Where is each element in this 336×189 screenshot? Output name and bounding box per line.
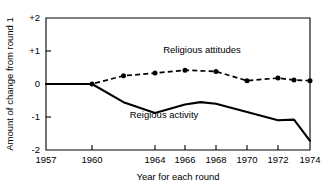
chart-figure: +2+10-1-2 195719601964196619681970197219… bbox=[0, 0, 336, 189]
series-label-1: Religious attitudes bbox=[163, 44, 241, 55]
data-point-marker bbox=[245, 78, 250, 83]
series-label-2: Reigious activity bbox=[130, 109, 199, 120]
y-tick-label: +2 bbox=[29, 12, 40, 23]
series-annotations: Religious attitudesReigious activity bbox=[130, 44, 241, 120]
x-tick-label: 1968 bbox=[205, 154, 226, 165]
x-axis-ticks: 19571960196419661968197019721974 bbox=[35, 145, 320, 165]
data-point-marker bbox=[183, 68, 188, 73]
series-layer bbox=[46, 68, 313, 141]
x-axis-title: Year for each round bbox=[136, 171, 219, 182]
data-point-marker bbox=[153, 71, 158, 76]
data-point-marker bbox=[121, 73, 126, 78]
x-tick-label: 1964 bbox=[144, 154, 165, 165]
y-tick-label: +1 bbox=[29, 45, 40, 56]
x-tick-label: 1957 bbox=[35, 154, 56, 165]
y-axis-title: Amount of change from round 1 bbox=[4, 17, 15, 151]
series-line-1 bbox=[46, 70, 310, 84]
x-tick-label: 1972 bbox=[267, 154, 288, 165]
x-tick-label: 1970 bbox=[236, 154, 257, 165]
data-point-marker bbox=[276, 76, 281, 81]
x-tick-label: 1960 bbox=[81, 154, 102, 165]
x-tick-label: 1966 bbox=[174, 154, 195, 165]
data-point-marker bbox=[214, 69, 219, 74]
y-tick-label: -1 bbox=[32, 111, 40, 122]
y-tick-label: 0 bbox=[35, 78, 40, 89]
chart-canvas: +2+10-1-2 195719601964196619681970197219… bbox=[0, 0, 336, 189]
data-point-marker bbox=[292, 78, 297, 83]
x-tick-label: 1974 bbox=[299, 154, 320, 165]
data-point-marker bbox=[308, 78, 313, 83]
